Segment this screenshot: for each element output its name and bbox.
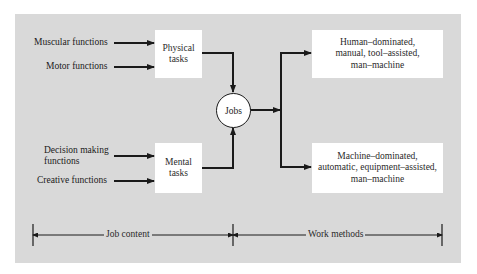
human-dominated-line2: manual, tool–assisted, (335, 48, 419, 60)
physical-tasks-line2: tasks (169, 54, 188, 66)
physical-tasks-box: Physical tasks (155, 30, 202, 78)
mental-tasks-line1: Mental (165, 157, 192, 169)
decision-making-line2: functions (44, 156, 109, 167)
decision-making-line1: Decision making (44, 145, 109, 156)
jobs-node: Jobs (216, 93, 251, 128)
work-methods-label: Work methods (306, 229, 365, 240)
machine-dominated-line3: man–machine (351, 174, 404, 186)
machine-dominated-line1: Machine–dominated, (337, 151, 417, 163)
human-dominated-box: Human–dominated, manual, tool–assisted, … (312, 30, 443, 78)
input-decision-making: Decision making functions (44, 145, 109, 167)
human-dominated-line1: Human–dominated, (340, 37, 415, 49)
machine-dominated-line2: automatic, equipment–assisted, (318, 162, 437, 174)
mental-tasks-line2: tasks (169, 168, 188, 180)
input-muscular-functions: Muscular functions (34, 37, 108, 48)
physical-tasks-line1: Physical (162, 43, 194, 55)
input-creative-functions: Creative functions (37, 175, 107, 186)
input-motor-functions: Motor functions (46, 61, 107, 72)
mental-tasks-box: Mental tasks (155, 143, 202, 193)
job-content-label: Job content (104, 229, 152, 240)
jobs-label: Jobs (225, 106, 242, 116)
human-dominated-line3: man–machine (351, 60, 404, 72)
machine-dominated-box: Machine–dominated, automatic, equipment–… (312, 143, 443, 193)
